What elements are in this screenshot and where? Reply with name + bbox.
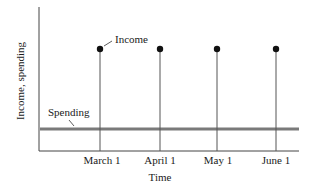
spending-leader xyxy=(69,120,74,126)
income-stems xyxy=(97,46,279,151)
x-tick-may: May 1 xyxy=(204,154,232,166)
x-axis-label: Time xyxy=(149,171,172,183)
income-leader xyxy=(104,41,112,46)
y-axis-label: Income, spending xyxy=(14,42,26,120)
spending-label: Spending xyxy=(48,106,90,118)
x-tick-june: June 1 xyxy=(262,154,290,166)
x-tick-april: April 1 xyxy=(144,154,175,166)
income-label: Income xyxy=(115,33,148,45)
x-tick-march: March 1 xyxy=(84,154,121,166)
